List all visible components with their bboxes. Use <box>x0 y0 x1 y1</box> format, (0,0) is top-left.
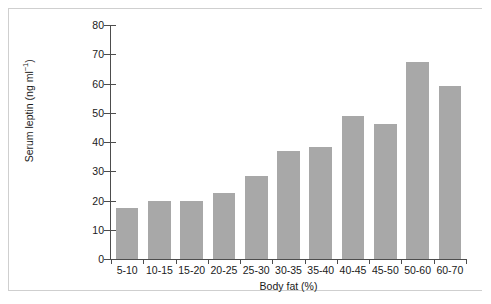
y-axis-tick-label: 60 <box>60 79 104 90</box>
bar <box>309 147 332 259</box>
x-axis-tick <box>240 260 241 264</box>
x-axis-tick-label: 60-70 <box>434 265 466 276</box>
x-axis-tick <box>208 260 209 264</box>
plot-area <box>111 25 466 259</box>
x-axis-tick <box>111 260 112 264</box>
x-axis-line <box>110 259 467 260</box>
bar <box>374 124 397 259</box>
x-axis-tick-label: 35-40 <box>305 265 337 276</box>
y-axis-tick-label: 20 <box>60 196 104 207</box>
x-axis-tick-label: 20-25 <box>208 265 240 276</box>
y-axis-tick-label: 70 <box>60 49 104 60</box>
y-axis-title-tail: ) <box>23 59 35 63</box>
x-axis-tick <box>466 260 467 264</box>
bar <box>245 176 268 259</box>
x-axis-tick-label: 5-10 <box>111 265 143 276</box>
y-axis-tick <box>104 113 110 114</box>
y-axis-tick-label: 80 <box>60 20 104 31</box>
y-axis-tick <box>104 54 110 55</box>
bar <box>406 62 429 259</box>
bar <box>277 151 300 259</box>
bar <box>342 116 365 259</box>
y-axis-tick <box>104 84 110 85</box>
y-axis-tick <box>104 25 110 26</box>
x-axis-tick-label: 50-60 <box>401 265 433 276</box>
y-axis-tick <box>104 171 110 172</box>
x-axis-tick <box>401 260 402 264</box>
y-axis-title: Serum leptin (ng ml−1) <box>21 31 35 191</box>
bar <box>148 201 171 260</box>
y-axis-tick-label: 0 <box>60 254 104 265</box>
bar <box>439 86 462 259</box>
x-axis-tick-label: 25-30 <box>240 265 272 276</box>
bar <box>213 193 236 259</box>
y-axis-tick-label: 30 <box>60 166 104 177</box>
y-axis-tick <box>104 201 110 202</box>
y-axis-tick-labels: 01020304050607080 <box>54 0 104 304</box>
x-axis-tick-label: 15-20 <box>176 265 208 276</box>
x-axis-tick <box>305 260 306 264</box>
y-axis-tick-label: 10 <box>60 225 104 236</box>
y-axis-tick-label: 50 <box>60 108 104 119</box>
x-axis-tick-label: 45-50 <box>369 265 401 276</box>
x-axis-tick <box>434 260 435 264</box>
bar <box>116 208 139 259</box>
x-axis-tick <box>143 260 144 264</box>
x-axis-tick <box>337 260 338 264</box>
x-axis-tick <box>272 260 273 264</box>
x-axis-tick-label: 40-45 <box>337 265 369 276</box>
y-axis-title-base: Serum leptin (ng ml <box>23 71 35 162</box>
x-axis-tick <box>176 260 177 264</box>
y-axis-title-exponent: −1 <box>21 63 30 72</box>
y-axis-tick <box>104 142 110 143</box>
x-axis-title: Body fat (%) <box>111 280 466 292</box>
bar <box>180 201 203 259</box>
x-axis-tick-label: 10-15 <box>143 265 175 276</box>
y-axis-tick <box>104 259 110 260</box>
x-axis-tick-label: 30-35 <box>272 265 304 276</box>
y-axis-tick <box>104 230 110 231</box>
x-axis-tick <box>369 260 370 264</box>
y-axis-tick-label: 40 <box>60 137 104 148</box>
